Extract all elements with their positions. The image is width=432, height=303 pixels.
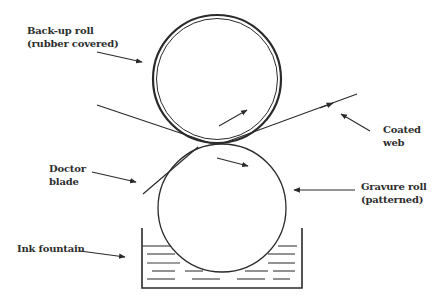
gravure-roll-label-line1: Gravure roll <box>361 180 427 193</box>
backup-roll-label-line1: Back-up roll <box>27 24 118 37</box>
gravure-roll-label-line2: (patterned) <box>361 193 427 206</box>
backup-roll-label-line2: (rubber covered) <box>27 37 118 50</box>
backup-roll-pointer-arrow <box>97 52 142 62</box>
coated-web-label-line1: Coated <box>383 123 421 136</box>
gravure-coating-diagram: Back-up roll (rubber covered) Coated web… <box>0 0 432 303</box>
gravure-roll <box>158 144 286 272</box>
ink-fountain-label-line1: Ink fountain <box>17 242 85 255</box>
backup-roll-label: Back-up roll (rubber covered) <box>27 24 118 50</box>
gravure-roll-label: Gravure roll (patterned) <box>361 180 427 206</box>
doctor-blade-label: Doctor blade <box>49 162 86 188</box>
doctor-blade-label-line1: Doctor <box>49 162 86 175</box>
doctor-blade-pointer-arrow <box>92 172 136 182</box>
backup-roll <box>153 15 281 143</box>
doctor-blade-label-line2: blade <box>49 175 86 188</box>
ink-fountain-pointer-arrow <box>80 251 125 257</box>
coated-web-label-line2: web <box>383 136 421 149</box>
coated-web-pointer-arrow <box>341 114 370 131</box>
coated-web-label: Coated web <box>383 123 421 149</box>
ink-fountain-label: Ink fountain <box>17 242 85 255</box>
